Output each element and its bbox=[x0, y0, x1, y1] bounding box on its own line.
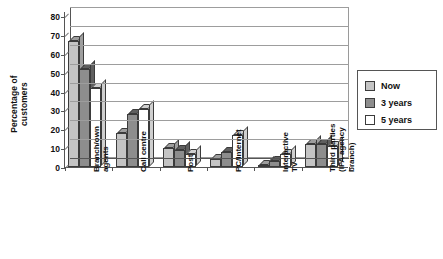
x-axis-label: Call centre bbox=[139, 88, 148, 172]
bar-3-years bbox=[269, 11, 280, 167]
gridline bbox=[70, 101, 349, 102]
bar-now bbox=[210, 11, 221, 167]
gridline bbox=[70, 26, 349, 27]
gridline bbox=[70, 7, 349, 8]
x-axis-tick-mark bbox=[207, 167, 208, 171]
x-axis-tick-mark bbox=[302, 167, 303, 171]
bar-rect bbox=[116, 133, 127, 167]
y-axis-title: Percentage of customers bbox=[8, 52, 30, 156]
gridline bbox=[70, 83, 349, 84]
bar-now bbox=[258, 11, 269, 167]
chart-legend: Now 3 years 5 years bbox=[357, 70, 437, 130]
bar-3-years bbox=[174, 11, 185, 167]
x-axis-label: Interactive TV bbox=[281, 88, 300, 172]
bar-3-years bbox=[221, 11, 232, 167]
bar-side-face bbox=[243, 126, 248, 166]
bar-now bbox=[68, 11, 79, 167]
x-axis-label: Third parties (IFA agency branch) bbox=[328, 88, 356, 172]
gridline bbox=[70, 120, 349, 121]
x-axis-labels: Branch/own agentsCall centrePostPC/Inter… bbox=[64, 172, 354, 258]
bar-rect bbox=[316, 144, 327, 167]
x-axis-tick-mark bbox=[65, 167, 66, 171]
legend-label-now: Now bbox=[381, 81, 400, 91]
legend-item-5-years: 5 years bbox=[365, 111, 436, 128]
bar-chart: Percentage of customers 0102030405060708… bbox=[0, 0, 443, 259]
bar-now bbox=[163, 11, 174, 167]
bar-side-face bbox=[196, 145, 201, 166]
x-axis-tick-mark bbox=[254, 167, 255, 171]
bar-rect bbox=[269, 161, 280, 167]
gridline bbox=[70, 158, 349, 159]
x-axis-label: Post bbox=[186, 88, 195, 172]
bar-rect bbox=[79, 69, 90, 167]
bar-now bbox=[305, 11, 316, 167]
bar-now bbox=[116, 11, 127, 167]
bar-3-years bbox=[79, 11, 90, 167]
bar-rect bbox=[258, 165, 269, 167]
bar-rect bbox=[68, 41, 79, 167]
x-axis-label: Branch/own agents bbox=[92, 88, 111, 172]
gridline bbox=[70, 139, 349, 140]
bar-rect bbox=[305, 144, 316, 167]
legend-swatch-now bbox=[365, 81, 375, 91]
legend-label-5-years: 5 years bbox=[381, 115, 412, 125]
x-axis-label: PC/Internet bbox=[234, 88, 243, 172]
bar-rect bbox=[210, 159, 221, 167]
x-axis-tick-mark bbox=[112, 167, 113, 171]
x-axis-tick-mark bbox=[160, 167, 161, 171]
legend-swatch-5-years bbox=[365, 115, 375, 125]
bar-side-face bbox=[149, 100, 154, 167]
legend-item-3-years: 3 years bbox=[365, 94, 436, 111]
legend-swatch-3-years bbox=[365, 98, 375, 108]
legend-item-now: Now bbox=[365, 77, 436, 94]
legend-label-3-years: 3 years bbox=[381, 98, 412, 108]
gridline bbox=[70, 45, 349, 46]
bar-3-years bbox=[316, 11, 327, 167]
bar-3-years bbox=[127, 11, 138, 167]
bar-rect bbox=[221, 152, 232, 167]
gridline bbox=[70, 64, 349, 65]
bar-rect bbox=[127, 114, 138, 167]
